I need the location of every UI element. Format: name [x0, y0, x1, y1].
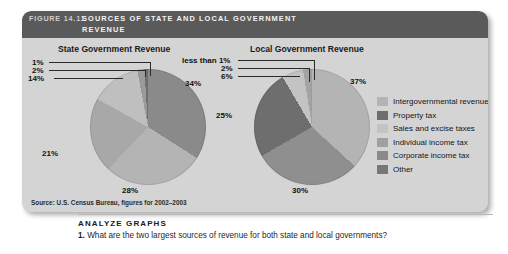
state-leader-line-1 [49, 62, 150, 63]
analyze-divider [78, 214, 493, 215]
local-leader-line-1 [238, 60, 314, 61]
state-pct-21: 21% [42, 149, 58, 158]
legend-label: Individual income tax [393, 138, 468, 147]
question-text: What are the two largest sources of reve… [87, 231, 387, 240]
state-pct-34: 34% [185, 79, 201, 88]
legend-item-sales-and-excise-taxes: Sales and excise taxes [377, 122, 488, 136]
legend-swatch-icon [377, 138, 388, 147]
local-chart-title: Local Government Revenue [250, 44, 364, 54]
figure-panel: FIGURE 14.11 SOURCES OF STATE AND LOCAL … [22, 11, 488, 212]
legend-label: Corporate income tax [393, 151, 469, 160]
question-number: 1. [78, 231, 85, 240]
state-leader-tick-2 [145, 70, 146, 77]
state-pct-14: 14% [28, 74, 44, 83]
legend-label: Other [393, 165, 413, 174]
local-leader-tick-2 [309, 68, 310, 82]
legend-swatch-icon [377, 111, 388, 120]
local-government-revenue-pie [254, 69, 370, 185]
legend-swatch-icon [377, 97, 388, 106]
analyze-graphs-heading: ANALYZE GRAPHS [78, 219, 498, 228]
local-leader-tick-1 [314, 60, 315, 80]
state-pct-28: 28% [122, 186, 138, 195]
legend-label: Intergovernmental revenue [393, 97, 488, 106]
legend-swatch-icon [377, 151, 388, 160]
legend: Intergovernmental revenue Property tax S… [377, 95, 488, 176]
legend-label: Sales and excise taxes [393, 124, 475, 133]
state-leader-line-3 [54, 78, 123, 79]
local-leader-line-3 [238, 76, 300, 77]
analyze-graphs-section: ANALYZE GRAPHS 1. What are the two large… [78, 219, 498, 240]
legend-label: Property tax [393, 111, 436, 120]
figure-number-label: FIGURE 14.11 [29, 14, 85, 23]
legend-item-intergovernmental-revenue: Intergovernmental revenue [377, 95, 488, 109]
local-pct-6: 6% [221, 72, 233, 81]
figure-title-label: SOURCES OF STATE AND LOCAL GOVERNMENT RE… [82, 14, 342, 35]
legend-item-individual-income-tax: Individual income tax [377, 136, 488, 150]
legend-item-corporate-income-tax: Corporate income tax [377, 149, 488, 163]
legend-item-property-tax: Property tax [377, 109, 488, 123]
local-pct-25: 25% [216, 111, 232, 120]
local-leader-line-2 [238, 68, 309, 69]
source-note: Source: U.S. Census Bureau, figures for … [31, 199, 187, 206]
legend-swatch-icon [377, 165, 388, 174]
state-chart-title: State Government Revenue [58, 44, 170, 54]
legend-swatch-icon [377, 124, 388, 133]
legend-item-other: Other [377, 163, 488, 177]
analyze-question-row: 1. What are the two largest sources of r… [78, 231, 498, 240]
local-pct-30: 30% [292, 186, 308, 195]
local-pct-37: 37% [350, 77, 366, 86]
state-leader-tick-1 [150, 62, 151, 76]
figure-header-bar: FIGURE 14.11 SOURCES OF STATE AND LOCAL … [22, 11, 488, 38]
state-leader-line-2 [49, 70, 145, 71]
